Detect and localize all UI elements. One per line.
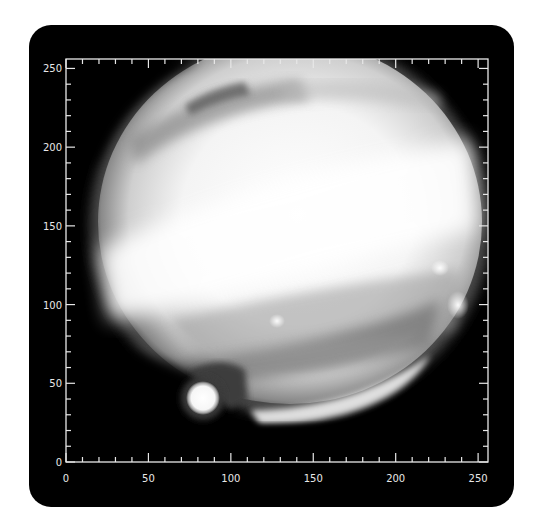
y-tick-label: 50 (49, 378, 62, 389)
y-tick-label: 100 (43, 300, 62, 311)
y-tick-label: 250 (43, 63, 62, 74)
y-tick-label: 150 (43, 221, 62, 232)
y-tick-label: 200 (43, 142, 62, 153)
spot-right-upper (431, 260, 449, 276)
jupiter-figure: 050100150200250 050100150200250 (0, 0, 543, 532)
x-tick-label: 150 (304, 473, 323, 484)
x-tick-label: 200 (386, 473, 405, 484)
x-tick-label: 50 (142, 473, 155, 484)
spot-right-lower (447, 291, 469, 319)
y-tick-label: 0 (56, 457, 62, 468)
spot-center (269, 314, 285, 328)
x-tick-label: 250 (469, 473, 488, 484)
moon (186, 381, 220, 415)
x-tick-label: 100 (221, 473, 240, 484)
x-tick-label: 0 (63, 473, 69, 484)
